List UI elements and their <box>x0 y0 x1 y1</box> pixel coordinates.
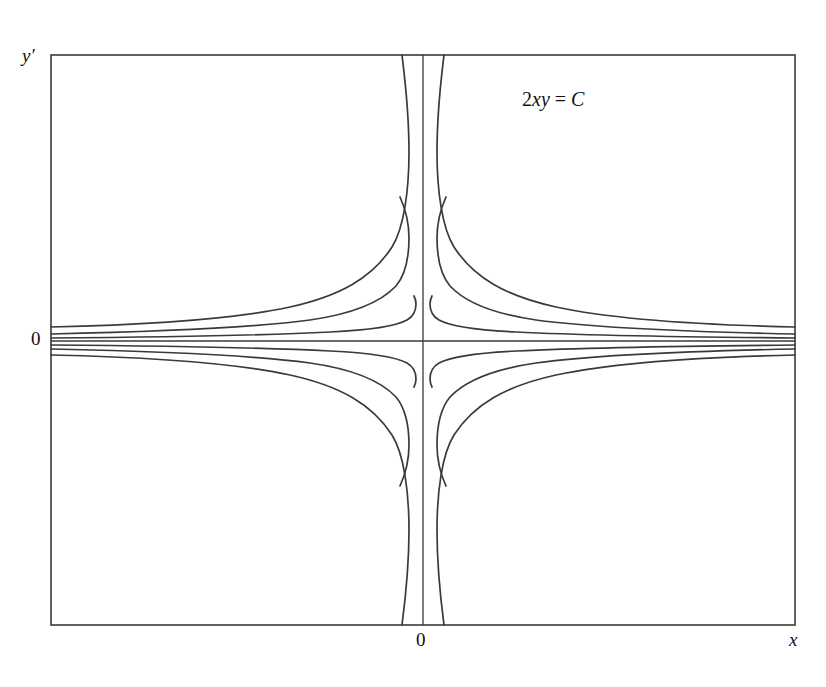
equation-annotation: 2xy = C <box>522 89 584 109</box>
equation-constant: C <box>571 88 584 110</box>
hyperbola-plot <box>0 0 826 687</box>
figure-root: y′ x 0 0 2xy = C <box>0 0 826 687</box>
y-axis-label: y′ <box>22 46 35 65</box>
y-axis-origin-tick-label: 0 <box>31 329 41 348</box>
equation-operator: = <box>550 88 571 110</box>
equation-variables: xy <box>532 88 550 110</box>
equation-coefficient: 2 <box>522 88 532 110</box>
x-axis-label: x <box>789 630 797 649</box>
plot-background <box>0 0 826 687</box>
x-axis-origin-tick-label: 0 <box>416 630 426 649</box>
